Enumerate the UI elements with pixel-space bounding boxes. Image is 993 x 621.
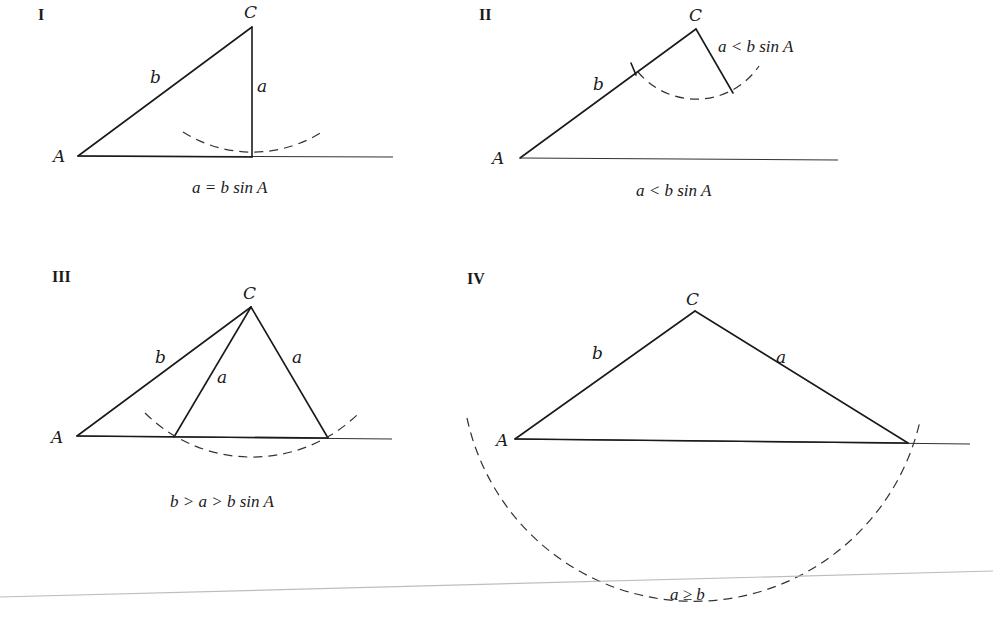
- side-a-long: [251, 307, 328, 438]
- vertex-a-label: A: [494, 430, 508, 450]
- vertex-c-label: C: [244, 2, 257, 22]
- side-b: [515, 311, 695, 439]
- vertex-c-label: C: [686, 289, 699, 309]
- vertex-c-label: C: [689, 5, 702, 25]
- side-a1-label: a: [217, 367, 227, 387]
- panel-i: I A C b a a = b sin A: [38, 2, 393, 197]
- vertex-a-label: A: [490, 148, 504, 168]
- side-b-label: b: [593, 74, 604, 94]
- baseline: [520, 158, 838, 160]
- side-a-short: [174, 307, 251, 437]
- panel-caption: a ≥ b: [670, 585, 705, 604]
- side-a: [695, 311, 908, 443]
- page-rule: [0, 571, 993, 597]
- panel-iv: IV A C b a a ≥ b: [467, 270, 970, 604]
- panel-number: III: [52, 268, 71, 285]
- side-b-label: b: [592, 343, 603, 363]
- panel-iii: III A C b a a b > a > b sin A: [49, 268, 392, 511]
- vertex-a-label: A: [49, 427, 63, 447]
- side-a2-label: a: [292, 347, 302, 367]
- vertex-a-label: A: [51, 146, 65, 166]
- side-b-label: b: [155, 347, 166, 367]
- panel-number: I: [38, 6, 44, 23]
- panel-number: II: [479, 6, 491, 23]
- panel-caption: b > a > b sin A: [170, 492, 274, 511]
- side-c: [77, 436, 328, 438]
- tick-mark: [631, 63, 636, 75]
- side-c: [515, 439, 908, 443]
- radius-arc: [638, 66, 759, 99]
- side-b: [520, 29, 696, 158]
- panel-number: IV: [467, 270, 485, 287]
- vertex-c-label: C: [243, 283, 256, 303]
- side-a-label: a: [776, 347, 786, 367]
- side-note: a < b sin A: [718, 37, 794, 56]
- panel-caption: a = b sin A: [192, 178, 268, 197]
- panel-caption: a < b sin A: [636, 181, 712, 200]
- side-b-label: b: [150, 67, 161, 87]
- radius-arc: [467, 418, 920, 601]
- side-a-label: a: [257, 76, 267, 96]
- ssa-diagram: I A C b a a = b sin A II A C b a < b sin…: [0, 0, 993, 621]
- side-c: [78, 156, 252, 157]
- side-b: [78, 27, 252, 156]
- radius-arc: [145, 413, 357, 457]
- panel-ii: II A C b a < b sin A a < b sin A: [479, 5, 838, 200]
